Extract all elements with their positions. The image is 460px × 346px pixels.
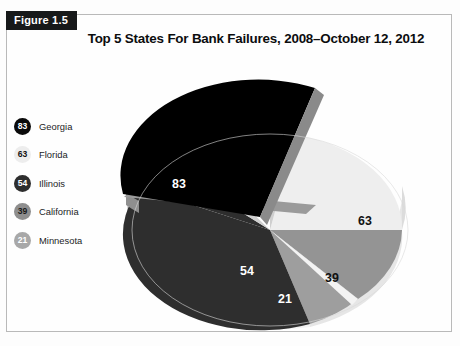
figure-container: Figure 1.5 Top 5 States For Bank Failure… — [0, 0, 460, 346]
pie-chart: 83 63 54 39 21 — [120, 55, 452, 337]
pie-chart-svg: 83 63 54 39 21 — [120, 55, 452, 337]
legend-label-illinois: Illinois — [39, 178, 65, 189]
legend-item-california[interactable]: 39 California — [14, 204, 118, 220]
legend-badge-california: 39 — [14, 203, 31, 220]
figure-number-tag: Figure 1.5 — [6, 11, 77, 30]
legend-item-florida[interactable]: 63 Florida — [14, 147, 118, 163]
slice-label-california: 39 — [325, 271, 339, 285]
legend-label-georgia: Georgia — [39, 121, 72, 132]
legend-label-california: California — [39, 206, 79, 217]
legend-label-minnesota: Minnesota — [39, 235, 82, 246]
slice-label-florida: 63 — [358, 214, 372, 228]
slice-label-georgia: 83 — [172, 177, 186, 191]
legend-badge-georgia: 83 — [14, 118, 31, 135]
legend-label-florida: Florida — [39, 149, 68, 160]
legend-item-minnesota[interactable]: 21 Minnesota — [14, 232, 118, 248]
slice-label-minnesota: 21 — [278, 292, 292, 306]
chart-legend: 83 Georgia 63 Florida 54 Illinois 39 Cal… — [14, 118, 118, 248]
slice-wall-right-rim — [402, 186, 406, 230]
legend-item-georgia[interactable]: 83 Georgia — [14, 118, 118, 134]
chart-title: Top 5 States For Bank Failures, 2008–Oct… — [60, 31, 452, 46]
legend-badge-florida: 63 — [14, 146, 31, 163]
slice-label-illinois: 54 — [240, 264, 254, 278]
legend-item-illinois[interactable]: 54 Illinois — [14, 175, 118, 191]
legend-badge-minnesota: 21 — [14, 232, 31, 249]
legend-badge-illinois: 54 — [14, 175, 31, 192]
